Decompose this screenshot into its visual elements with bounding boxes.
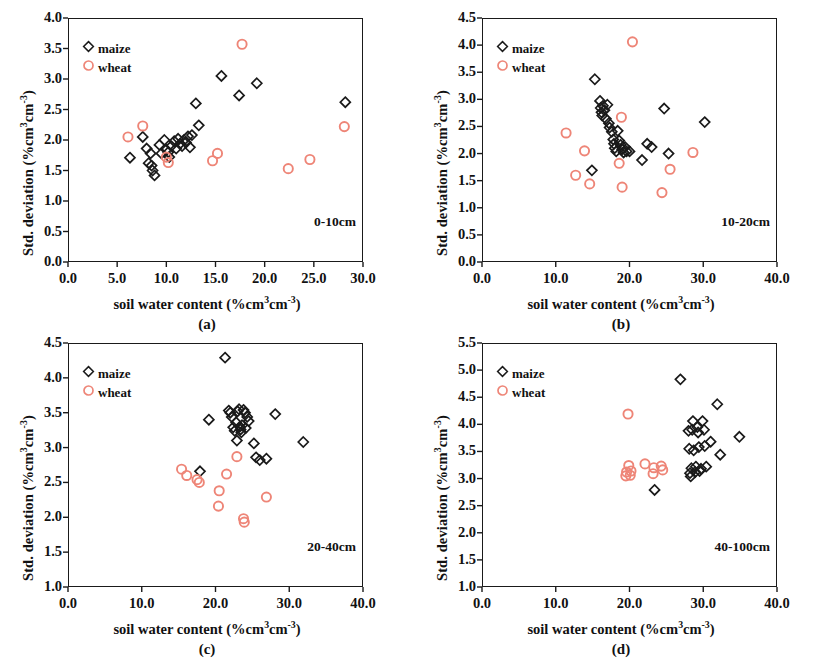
data-point-wheat <box>640 459 649 468</box>
data-point-wheat <box>665 165 674 174</box>
legend-label-wheat: wheat <box>512 384 545 403</box>
diamond-outline-icon <box>82 365 95 384</box>
y-tick-label: 4.0 <box>6 9 62 26</box>
circle-outline-icon <box>496 384 509 403</box>
data-point-wheat <box>571 171 580 180</box>
circle-outline-icon <box>496 59 509 78</box>
series-maize-b <box>587 74 710 175</box>
legend-item-maize[interactable]: maize <box>496 40 545 59</box>
data-point-maize <box>249 438 259 448</box>
y-axis-title: Std. deviation (%cm3cm-3) <box>18 415 37 581</box>
y-tick-label: 4.5 <box>420 388 476 405</box>
series-wheat-b <box>561 37 697 197</box>
x-axis-title: soil water content (%cm3cm-3) <box>0 294 414 313</box>
data-point-wheat <box>232 452 241 461</box>
data-point-wheat <box>164 158 173 167</box>
data-point-maize <box>298 437 308 447</box>
y-tick-label: 3.5 <box>6 40 62 57</box>
depth-annotation-c: 20-40cm <box>251 539 356 555</box>
legend-label-maize: maize <box>512 365 544 384</box>
legend-item-maize[interactable]: maize <box>82 365 131 384</box>
data-point-maize <box>659 104 669 114</box>
legend-label-maize: maize <box>98 40 130 59</box>
panel-d: 1.01.52.02.53.03.54.04.55.05.50.010.020.… <box>414 325 828 650</box>
data-point-wheat <box>617 113 626 122</box>
legend-label-maize: maize <box>512 40 544 59</box>
data-point-maize <box>138 132 148 142</box>
data-point-maize <box>590 74 600 84</box>
depth-annotation-a: 0-10cm <box>251 214 356 230</box>
x-axis-title: soil water content (%cm3cm-3) <box>0 619 414 638</box>
data-point-wheat <box>340 122 349 131</box>
data-point-wheat <box>123 132 132 141</box>
legend-item-maize[interactable]: maize <box>82 40 131 59</box>
plot-area-c: 1.01.52.02.53.03.54.04.50.010.020.030.04… <box>0 325 414 650</box>
data-point-wheat <box>585 179 594 188</box>
y-tick-label: 5.0 <box>420 361 476 378</box>
plot-area-a: 0.00.51.01.52.02.53.03.54.00.05.010.015.… <box>0 0 414 325</box>
data-point-maize <box>700 117 710 127</box>
data-point-wheat <box>657 188 666 197</box>
panel-caption-c: (c) <box>0 641 414 658</box>
data-point-maize <box>664 149 674 159</box>
data-point-wheat <box>628 37 637 46</box>
x-tick-label: 10.0 <box>526 595 586 612</box>
data-point-maize <box>204 415 214 425</box>
x-tick-label: 30.0 <box>673 595 733 612</box>
series-wheat-d <box>621 409 667 480</box>
x-tick-label: 20.0 <box>600 595 660 612</box>
data-point-wheat <box>237 40 246 49</box>
data-point-wheat <box>623 409 632 418</box>
x-tick-label: 0.0 <box>38 595 98 612</box>
x-tick-label: 30.0 <box>259 595 319 612</box>
data-point-wheat <box>305 155 314 164</box>
x-tick-label: 20.0 <box>600 270 660 287</box>
x-axis-title: soil water content (%cm3cm-3) <box>414 619 828 638</box>
data-point-wheat <box>618 183 627 192</box>
legend-label-wheat: wheat <box>98 59 131 78</box>
legend-label-wheat: wheat <box>512 59 545 78</box>
data-point-wheat <box>138 121 147 130</box>
diamond-outline-icon <box>82 40 95 59</box>
y-axis-title: Std. deviation (%cm3cm-3) <box>432 415 451 581</box>
data-point-maize <box>270 409 280 419</box>
data-point-maize <box>734 432 744 442</box>
x-tick-label: 40.0 <box>333 595 393 612</box>
data-point-maize <box>194 120 204 130</box>
data-point-wheat <box>215 486 224 495</box>
data-point-wheat <box>213 149 222 158</box>
plot-area-d: 1.01.52.02.53.03.54.04.55.05.50.010.020.… <box>414 325 828 650</box>
legend-item-wheat[interactable]: wheat <box>496 384 545 403</box>
circle-outline-icon <box>82 384 95 403</box>
legend-b: maizewheat <box>496 40 545 78</box>
legend-item-wheat[interactable]: wheat <box>496 59 545 78</box>
data-point-maize <box>340 97 350 107</box>
legend-item-wheat[interactable]: wheat <box>82 59 131 78</box>
circle-outline-icon <box>82 59 95 78</box>
data-point-maize <box>150 170 160 180</box>
data-point-maize <box>715 450 725 460</box>
y-tick-label: 5.5 <box>420 334 476 351</box>
data-point-wheat <box>688 148 697 157</box>
y-axis-title: Std. deviation (%cm3cm-3) <box>18 90 37 256</box>
data-point-wheat <box>262 492 271 501</box>
data-point-wheat <box>222 469 231 478</box>
panel-c: 1.01.52.02.53.03.54.04.50.010.020.030.04… <box>0 325 414 650</box>
data-point-maize <box>650 485 660 495</box>
depth-annotation-b: 10-20cm <box>665 214 770 230</box>
data-point-maize <box>706 437 716 447</box>
legend-item-wheat[interactable]: wheat <box>82 384 131 403</box>
x-tick-label: 10.0 <box>112 595 172 612</box>
data-point-wheat <box>615 159 624 168</box>
data-point-maize <box>637 155 647 165</box>
data-point-wheat <box>561 128 570 137</box>
data-point-wheat <box>195 478 204 487</box>
data-point-maize <box>234 90 244 100</box>
panel-b: 0.00.51.01.52.02.53.03.54.04.50.010.020.… <box>414 0 828 325</box>
data-point-wheat <box>177 465 186 474</box>
x-tick-label: 0.0 <box>452 270 512 287</box>
legend-item-maize[interactable]: maize <box>496 365 545 384</box>
legend-a: maizewheat <box>82 40 131 78</box>
series-maize-a <box>125 71 350 180</box>
